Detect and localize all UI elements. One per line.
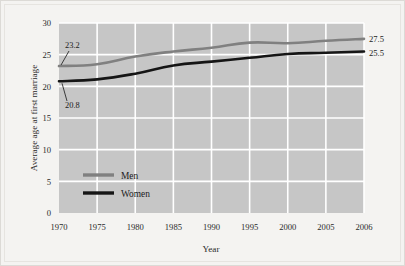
x-axis-title: Year [203, 244, 220, 254]
annotation-women-end: 25.5 [369, 48, 384, 58]
x-tick-label: 1975 [89, 222, 106, 232]
x-tick-label: 2000 [279, 222, 296, 232]
y-tick-label: 20 [42, 82, 51, 92]
y-tick-label: 0 [47, 208, 51, 218]
y-axis-tick-labels: 051015202530 [42, 18, 51, 218]
y-tick-label: 15 [42, 113, 51, 123]
x-tick-label: 2006 [355, 222, 373, 232]
x-tick-label: 1970 [50, 222, 67, 232]
annotation-men-start: 23.2 [65, 41, 80, 50]
y-tick-label: 30 [42, 18, 51, 28]
line-chart: 051015202530 197019751980198519901995200… [1, 1, 405, 266]
y-axis-title: Average age at first marriage [29, 65, 39, 171]
annotation-women-start: 20.8 [65, 101, 80, 110]
legend-label-men: Men [121, 171, 138, 181]
legend-label-women: Women [121, 189, 150, 199]
y-tick-label: 5 [47, 177, 51, 187]
y-tick-label: 10 [42, 145, 51, 155]
chart-figure: 051015202530 197019751980198519901995200… [0, 0, 405, 266]
x-tick-label: 1995 [241, 222, 258, 232]
annotation-men-end: 27.5 [369, 34, 384, 44]
x-tick-label: 1980 [127, 222, 144, 232]
x-tick-label: 2005 [317, 222, 334, 232]
x-tick-label: 1985 [165, 222, 182, 232]
x-axis-tick-labels: 197019751980198519901995200020052006 [50, 222, 373, 232]
x-tick-label: 1990 [203, 222, 220, 232]
y-tick-label: 25 [42, 50, 51, 60]
